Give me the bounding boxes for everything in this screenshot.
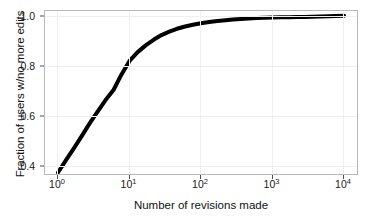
x-axis-tick-mark	[57, 175, 58, 179]
gridline-vertical	[129, 11, 130, 174]
gridline-vertical	[272, 11, 273, 174]
x-axis-tick-mark	[272, 175, 273, 179]
gridline-horizontal	[45, 16, 357, 17]
x-axis-tick-label: 100	[49, 178, 65, 190]
x-axis-tick-mark	[200, 175, 201, 179]
x-axis-tick-label: 104	[335, 178, 351, 190]
x-axis-tick-label: 101	[121, 178, 137, 190]
x-axis-tick-mark	[343, 175, 344, 179]
gridline-horizontal	[45, 166, 357, 167]
gridline-vertical	[200, 11, 201, 174]
gridline-horizontal	[45, 66, 357, 67]
series-line-fraction-of-users	[45, 11, 358, 175]
series-path	[58, 16, 344, 173]
chart-figure: Fraction of users w/no more edits Number…	[0, 0, 368, 220]
gridline-vertical	[57, 11, 58, 174]
gridline-vertical	[343, 11, 344, 174]
x-axis-tick-label: 103	[264, 178, 280, 190]
plot-panel	[44, 10, 358, 175]
x-axis-tick-mark	[129, 175, 130, 179]
gridline-horizontal	[45, 116, 357, 117]
x-axis-tick-label: 102	[192, 178, 208, 190]
